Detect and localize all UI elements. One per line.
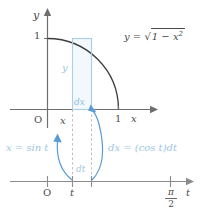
curve-equation-radicand: 1 − x [152, 31, 179, 42]
pi-over-two-tick-label: π 2 [165, 188, 177, 210]
curve-equation-label: y = √1 − x2 [124, 28, 185, 42]
curve-equation-exponent: 2 [179, 30, 183, 38]
t-axis-label: t [186, 188, 190, 198]
x-axis-label: x [131, 114, 137, 124]
strip-height-label-y: y [62, 63, 68, 73]
pi-over-two-numerator: π [165, 188, 177, 197]
t-tick-label: t [70, 188, 74, 198]
dt-label: dt [76, 165, 85, 174]
annotation-x-equals-sin-t: x = sin t [6, 143, 48, 153]
origin-label-lower: O [43, 188, 51, 198]
curve-equation-lhs: y = [124, 31, 141, 42]
figure-substitution-diagram: y 1 O 1 x y = √1 − x2 y dx x x = sin t d… [0, 0, 211, 218]
annotation-dx-equals-cos-t-dt: dx = (cos t)dt [108, 143, 177, 153]
x-position-label: x [60, 116, 66, 126]
origin-label-upper: O [34, 115, 42, 125]
curved-arrow-left-head [53, 134, 62, 143]
curved-arrow-right [92, 111, 103, 181]
upper-x-axis-arrowhead [150, 106, 158, 113]
lower-t-axis-arrowhead [186, 178, 194, 185]
sqrt-symbol-icon: √1 − x2 [141, 28, 185, 42]
x-tick-label-one: 1 [115, 114, 121, 124]
pi-over-two-denominator: 2 [165, 200, 177, 209]
y-axis-label: y [33, 10, 39, 21]
y-tick-label-one: 1 [34, 31, 40, 41]
curved-arrow-left [57, 141, 72, 180]
upper-y-axis-arrowhead [44, 8, 51, 16]
strip-width-label-dx: dx [74, 98, 85, 107]
